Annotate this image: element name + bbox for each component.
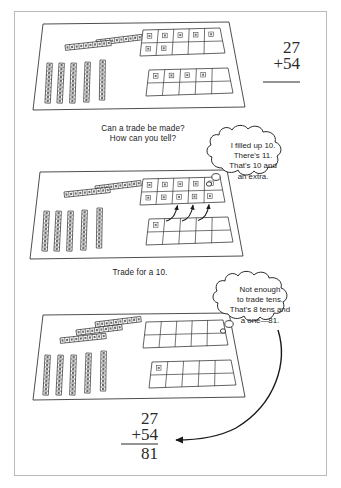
ten-frame-bottom-p1 [146, 68, 233, 96]
bubble-one-line-4: an extra. [216, 172, 290, 182]
thought-bubble-two-text: Not enough to trade tens. That's 8 tens … [221, 285, 299, 326]
panel-start-mat [33, 22, 245, 110]
ten-frame-top-p3 [143, 320, 228, 348]
thought-bubble-one-text: I filled up 10. There's 11. That's 10 an… [216, 141, 290, 182]
bubble-one-line-2: There's 11. [216, 151, 290, 161]
bubble-two-line-3: That's 8 tens and [221, 305, 299, 315]
problem-statement-solved: 27 +54 [114, 411, 158, 443]
ten-frame-top-p1 [140, 28, 225, 56]
addend-bottom-value: +54 [256, 56, 300, 72]
illustration-layer [0, 0, 341, 488]
bubble-one-line-3: That's 10 and [216, 161, 290, 171]
bubble-two-line-4: a one—81. [221, 316, 299, 326]
worksheet-page: 27 +54 Can a trade be made? How can you … [0, 0, 341, 488]
ten-frame-bottom-p3 [149, 360, 236, 388]
trade-instruction-caption: Trade for a 10. [85, 268, 195, 278]
question-caption: Can a trade be made? How can you tell? [75, 124, 211, 145]
bubble-two-line-1: Not enough [221, 285, 299, 295]
ten-frame-bottom-p2 [146, 217, 233, 245]
bubble-one-line-1: I filled up 10. [216, 141, 290, 151]
panel-result-mat [33, 313, 245, 400]
ten-frame-top-p2 [140, 177, 225, 205]
question-line-1: Can a trade be made? [75, 124, 211, 134]
bubble-two-line-2: to trade tens. [221, 295, 299, 305]
solved-addend-bottom: +54 [114, 427, 158, 443]
sum-result: 81 [114, 446, 158, 462]
question-line-2: How can you tell? [75, 134, 211, 144]
problem-statement-top: 27 +54 [256, 40, 300, 72]
